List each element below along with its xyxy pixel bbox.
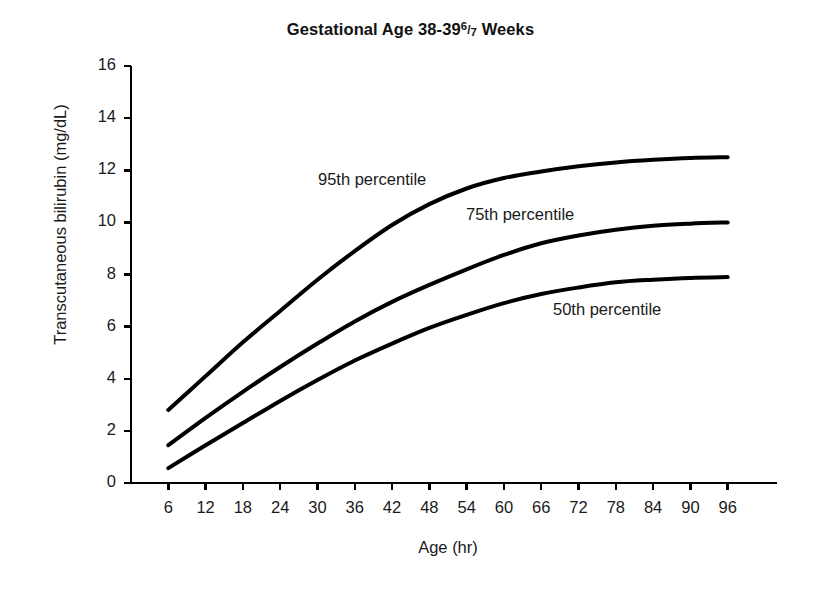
y-tick-label-14: 14 (76, 107, 116, 126)
y-tick-label-12: 12 (76, 159, 116, 178)
x-tick-label-90: 90 (670, 498, 710, 517)
y-tick-label-16: 16 (76, 55, 116, 74)
series-annotation-50th-percentile: 50th percentile (553, 300, 661, 319)
x-tick-label-66: 66 (521, 498, 561, 517)
y-tick-label-0: 0 (76, 472, 116, 491)
x-tick-label-54: 54 (447, 498, 487, 517)
x-tick-label-84: 84 (633, 498, 673, 517)
tick-marks (124, 66, 728, 490)
x-tick-label-42: 42 (372, 498, 412, 517)
x-tick-label-96: 96 (708, 498, 748, 517)
x-tick-label-60: 60 (484, 498, 524, 517)
x-tick-label-36: 36 (335, 498, 375, 517)
chart-figure: Gestational Age 38-396/7 Weeks Transcuta… (0, 0, 821, 593)
x-tick-label-12: 12 (186, 498, 226, 517)
x-tick-label-72: 72 (559, 498, 599, 517)
x-tick-label-6: 6 (148, 498, 188, 517)
x-tick-label-18: 18 (223, 498, 263, 517)
y-tick-label-2: 2 (76, 420, 116, 439)
series-annotation-75th-percentile: 75th percentile (466, 205, 574, 224)
y-tick-label-8: 8 (76, 264, 116, 283)
x-tick-label-24: 24 (260, 498, 300, 517)
y-tick-label-4: 4 (76, 368, 116, 387)
x-tick-label-30: 30 (297, 498, 337, 517)
series-annotation-95th-percentile: 95th percentile (318, 170, 426, 189)
x-tick-label-78: 78 (596, 498, 636, 517)
y-tick-label-6: 6 (76, 316, 116, 335)
y-tick-label-10: 10 (76, 211, 116, 230)
series-line-95th-percentile (168, 157, 727, 410)
x-tick-label-48: 48 (409, 498, 449, 517)
